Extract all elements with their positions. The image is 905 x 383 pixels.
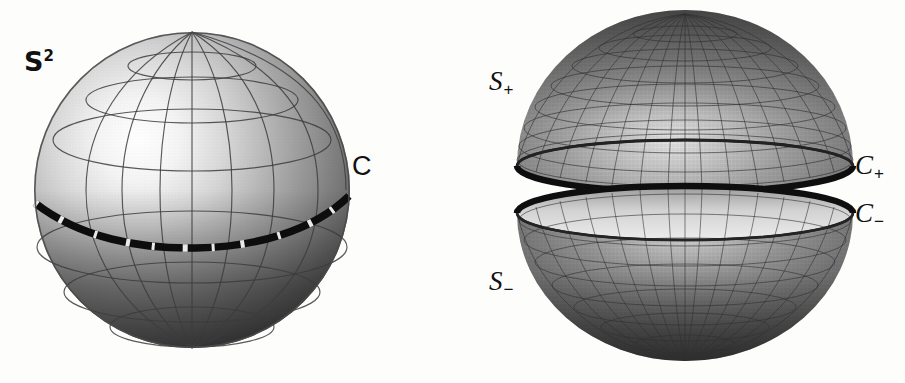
label-lower-hemisphere-subscript: − bbox=[504, 280, 514, 299]
label-sphere-s2-exponent: 2 bbox=[43, 47, 53, 65]
label-lower-boundary-base: C bbox=[855, 198, 873, 228]
sphere-figure-svg bbox=[0, 0, 905, 383]
lower-hemisphere-bowl bbox=[517, 186, 853, 361]
label-upper-boundary-subscript: + bbox=[874, 164, 884, 183]
label-upper-boundary-c-plus: C+ bbox=[855, 152, 884, 182]
figure-root: S2 C S+ S− C+ C− bbox=[0, 0, 905, 383]
label-upper-boundary-base: C bbox=[855, 150, 873, 180]
label-lower-hemisphere-base: S bbox=[489, 266, 503, 296]
label-lower-boundary-subscript: − bbox=[874, 212, 884, 231]
label-equator-c: C bbox=[352, 153, 372, 180]
left-panel-sphere bbox=[34, 32, 350, 348]
label-lower-hemisphere-s-minus: S− bbox=[489, 268, 513, 298]
label-upper-hemisphere-base: S bbox=[489, 66, 503, 96]
upper-hemisphere-dome bbox=[517, 10, 853, 192]
label-sphere-s2: S2 bbox=[24, 48, 54, 75]
label-sphere-s2-base: S bbox=[24, 46, 43, 77]
label-lower-boundary-c-minus: C− bbox=[855, 200, 884, 230]
label-upper-hemisphere-s-plus: S+ bbox=[489, 68, 513, 98]
label-upper-hemisphere-subscript: + bbox=[504, 80, 514, 99]
